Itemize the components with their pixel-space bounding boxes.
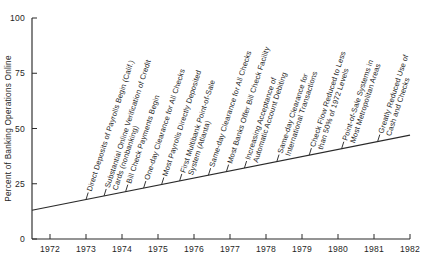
annotation-tick xyxy=(86,193,88,200)
annotation-tick xyxy=(208,168,210,175)
x-axis-tick-label: 1973 xyxy=(76,244,96,254)
annotation-tick xyxy=(104,189,106,196)
annotation-tick xyxy=(144,181,146,188)
x-axis-tick-label: 1976 xyxy=(184,244,204,254)
x-axis-tick-label: 1977 xyxy=(220,244,240,254)
annotation-tick xyxy=(378,135,380,142)
y-axis-tick-label: 0 xyxy=(20,234,25,244)
annotation-tick xyxy=(244,161,246,168)
x-axis-tick-label: 1979 xyxy=(292,244,312,254)
y-axis: 0255075100 xyxy=(10,13,37,244)
y-axis-title: Percent of Banking Operations Online xyxy=(4,55,13,202)
annotation-tick xyxy=(126,185,128,192)
annotation-tick xyxy=(162,178,164,185)
y-axis-tick-label: 75 xyxy=(15,68,25,78)
x-axis-tick-label: 1975 xyxy=(148,244,168,254)
annotation-label: Greatly Reduced Use ofCash and Checks xyxy=(376,53,418,137)
x-axis-tick-label: 1980 xyxy=(328,244,348,254)
x-axis-tick-label: 1981 xyxy=(364,244,384,254)
x-axis-tick-label: 1972 xyxy=(40,244,60,254)
y-axis-tick-label: 100 xyxy=(10,13,25,23)
x-axis: 1972197319741975197619771978197919801981… xyxy=(32,234,420,254)
annotation-tick xyxy=(309,148,311,155)
y-axis-tick-label: 50 xyxy=(15,124,25,134)
y-axis-title-text: Percent of Banking Operations Online xyxy=(4,55,13,202)
annotation-tick xyxy=(277,155,279,162)
x-axis-tick-label: 1978 xyxy=(256,244,276,254)
chart-container: 0255075100 19721973197419751976197719781… xyxy=(0,0,421,265)
annotation-labels: Direct Deposits of Payrolls Begin (Calif… xyxy=(85,45,419,199)
y-axis-tick-label: 25 xyxy=(15,179,25,189)
annotation-tick xyxy=(342,142,344,149)
x-axis-tick-label: 1982 xyxy=(400,244,420,254)
annotation-tick xyxy=(180,174,182,181)
x-axis-tick-label: 1974 xyxy=(112,244,132,254)
banking-operations-online-line-chart: 0255075100 19721973197419751976197719781… xyxy=(0,0,421,265)
annotation-tick xyxy=(226,165,228,172)
